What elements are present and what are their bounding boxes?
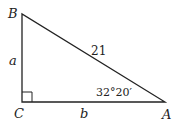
triangle-diagram: B a C b 21 32°20′ A [0, 0, 180, 122]
right-angle-marker [22, 92, 32, 102]
vertex-label-c: C [14, 106, 24, 121]
hypotenuse-label: 21 [91, 44, 106, 58]
vertex-label-a: A [161, 107, 171, 122]
side-label-b: b [80, 106, 88, 121]
vertex-label-b: B [7, 6, 18, 21]
triangle-svg: B a C b 21 32°20′ A [0, 0, 180, 122]
angle-a-label: 32°20′ [96, 86, 132, 99]
side-label-a: a [9, 53, 17, 68]
triangle-shape [22, 14, 165, 102]
